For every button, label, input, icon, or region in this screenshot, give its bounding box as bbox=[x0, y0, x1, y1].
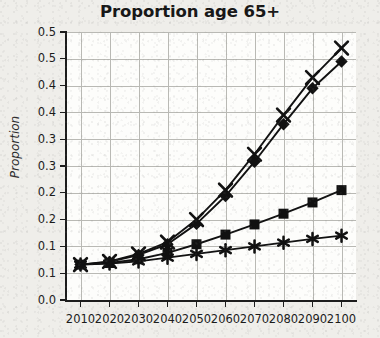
y-axis-tick-label: 0.0 bbox=[12, 293, 56, 307]
y-axis-tick bbox=[60, 246, 66, 247]
y-axis-tick-label: 0.1 bbox=[12, 239, 56, 253]
x-axis-tick bbox=[312, 301, 313, 307]
gridline-vertical bbox=[226, 32, 227, 300]
x-axis-tick bbox=[167, 301, 168, 307]
gridline-vertical bbox=[284, 32, 285, 300]
y-axis-tick bbox=[60, 31, 66, 32]
y-axis-tick bbox=[60, 85, 66, 86]
y-axis-tick-label: 0.3 bbox=[12, 159, 56, 173]
y-axis-tick bbox=[60, 192, 66, 193]
y-axis-tick-label: 0.1 bbox=[12, 266, 56, 280]
x-axis-tick bbox=[283, 301, 284, 307]
y-axis-tick bbox=[60, 273, 66, 274]
y-axis-tick bbox=[60, 112, 66, 113]
chart-screenshot: Proportion age 65+ Proportion 0.00.10.10… bbox=[0, 0, 380, 338]
gridline-vertical bbox=[110, 32, 111, 300]
plot-area bbox=[66, 32, 356, 300]
y-axis-tick-label: 0.4 bbox=[12, 105, 56, 119]
x-axis-tick bbox=[109, 301, 110, 307]
x-axis-tick bbox=[225, 301, 226, 307]
gridline-vertical bbox=[139, 32, 140, 300]
y-axis-tick bbox=[60, 219, 66, 220]
y-axis-tick-label: 0.2 bbox=[12, 185, 56, 199]
y-axis-tick-label: 0.3 bbox=[12, 132, 56, 146]
y-axis-tick-label: 0.5 bbox=[12, 51, 56, 65]
x-axis-tick bbox=[254, 301, 255, 307]
y-axis-tick bbox=[60, 299, 66, 300]
gridline-vertical bbox=[342, 32, 343, 300]
y-axis-tick-label: 0.2 bbox=[12, 212, 56, 226]
y-axis-tick bbox=[60, 58, 66, 59]
chart-title: Proportion age 65+ bbox=[0, 2, 380, 21]
gridline-vertical bbox=[168, 32, 169, 300]
gridline-vertical bbox=[81, 32, 82, 300]
y-axis-tick-label: 0.4 bbox=[12, 78, 56, 92]
y-axis-tick-label: 0.5 bbox=[12, 25, 56, 39]
x-axis-tick bbox=[80, 301, 81, 307]
gridline-vertical bbox=[255, 32, 256, 300]
gridline-vertical bbox=[313, 32, 314, 300]
x-axis-tick bbox=[341, 301, 342, 307]
y-axis-tick bbox=[60, 139, 66, 140]
x-axis-tick bbox=[196, 301, 197, 307]
x-axis-tick bbox=[138, 301, 139, 307]
y-axis-tick bbox=[60, 165, 66, 166]
gridline-vertical bbox=[197, 32, 198, 300]
x-axis-tick-label: 2100 bbox=[319, 312, 365, 326]
